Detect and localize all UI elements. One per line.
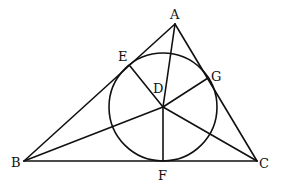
segment-CA	[175, 24, 257, 161]
label-E: E	[118, 49, 128, 64]
label-B: B	[11, 155, 21, 170]
label-F: F	[158, 168, 167, 183]
segment-AD	[163, 24, 175, 107]
geometry-diagram: A B C D E F G	[0, 0, 281, 189]
label-G: G	[211, 69, 221, 84]
label-C: C	[259, 156, 269, 171]
segment-BD	[24, 107, 163, 161]
diagram-lines	[24, 24, 257, 161]
segment-DG	[163, 78, 208, 107]
label-A: A	[169, 7, 180, 22]
label-D: D	[153, 81, 163, 96]
